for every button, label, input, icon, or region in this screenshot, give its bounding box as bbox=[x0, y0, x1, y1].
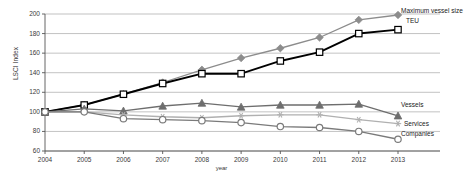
data-point-marker-star bbox=[395, 121, 401, 127]
data-point-marker-circle bbox=[120, 116, 126, 122]
data-point-marker-star bbox=[238, 113, 244, 119]
data-point-marker-square bbox=[316, 49, 322, 55]
series-teu bbox=[42, 26, 401, 115]
plot-area bbox=[0, 0, 465, 178]
data-point-marker-square bbox=[120, 91, 126, 97]
data-point-marker-diamond bbox=[277, 45, 284, 52]
series-line bbox=[45, 15, 398, 112]
data-point-marker-square bbox=[199, 70, 205, 76]
data-point-marker-diamond bbox=[316, 34, 323, 41]
series-companies bbox=[42, 109, 401, 143]
data-point-marker-circle bbox=[316, 124, 322, 130]
legend-label-services: Services bbox=[404, 120, 429, 127]
legend-label-vessels: Vessels bbox=[401, 101, 423, 108]
data-point-marker-circle bbox=[159, 116, 165, 122]
data-point-marker-diamond bbox=[237, 54, 244, 61]
legend-label-companies: Companies bbox=[401, 130, 434, 137]
data-point-marker-circle bbox=[238, 119, 244, 125]
series-maximum-vessel-size bbox=[41, 11, 401, 115]
data-point-marker-star bbox=[277, 112, 283, 118]
data-point-marker-square bbox=[238, 70, 244, 76]
series-line bbox=[45, 112, 398, 139]
legend-label-maximum-vessel-size: Maximum vessel size bbox=[401, 7, 463, 14]
data-point-marker-square bbox=[356, 30, 362, 36]
data-point-marker-square bbox=[159, 80, 165, 86]
data-point-marker-circle bbox=[277, 123, 283, 129]
data-point-marker-circle bbox=[42, 109, 48, 115]
data-point-marker-diamond bbox=[355, 16, 362, 23]
data-point-marker-circle bbox=[395, 136, 401, 142]
data-point-marker-star bbox=[356, 117, 362, 123]
data-point-marker-circle bbox=[199, 117, 205, 123]
data-point-marker-square bbox=[395, 26, 401, 32]
chart-container: LSCI Index 6080100120140160180200 200420… bbox=[0, 0, 465, 178]
data-point-marker-circle bbox=[356, 128, 362, 134]
series-line bbox=[45, 30, 398, 112]
legend-label-teu: TEU bbox=[406, 17, 419, 24]
data-point-marker-square bbox=[277, 58, 283, 64]
data-point-marker-star bbox=[316, 112, 322, 118]
data-point-marker-circle bbox=[81, 109, 87, 115]
